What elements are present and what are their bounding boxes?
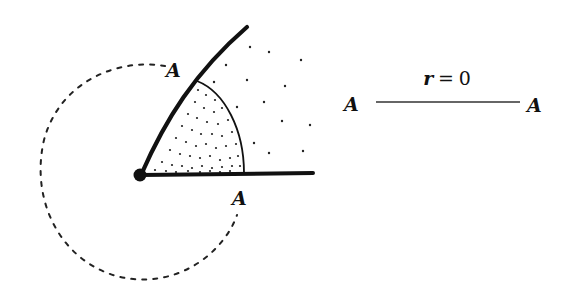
label-right-end-a: A [525,94,542,116]
horizontal-ray [141,173,313,175]
eq-variable: r [423,67,435,89]
shaded-sector [141,81,244,175]
label-lower-a: A [230,187,247,209]
identification-diagram: A A A A r = 0 [0,0,576,293]
vertex-point [134,169,147,182]
label-upper-a: A [164,59,181,81]
segment-equation: r = 0 [423,67,471,89]
eq-operator: = [438,67,454,89]
label-left-end-a: A [342,93,359,115]
eq-value: 0 [459,67,471,89]
